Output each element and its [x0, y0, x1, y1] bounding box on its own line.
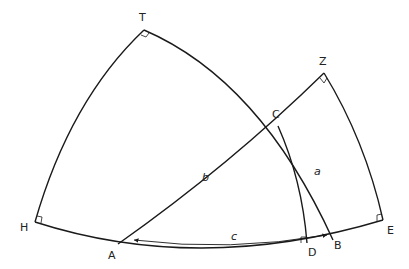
right-angle-marker-H: [37, 216, 42, 223]
label-E: E: [387, 224, 394, 237]
label-T: T: [138, 11, 146, 24]
right-angle-marker-Z: [320, 78, 327, 83]
arc-AZ: [118, 73, 324, 244]
arc-ZE: [324, 73, 383, 220]
label-C: C: [272, 108, 280, 121]
label-H: H: [20, 221, 28, 234]
label-D: D: [308, 246, 316, 259]
arc-HE-base: [35, 220, 383, 248]
arc-HT: [35, 30, 144, 222]
label-Z: Z: [319, 55, 327, 68]
label-side-b: b: [202, 171, 209, 184]
label-A: A: [108, 249, 116, 262]
arc-CD: [278, 126, 307, 243]
spherical-triangle-diagram: T Z C H A D B E a b c: [0, 0, 409, 269]
label-side-a: a: [314, 165, 321, 178]
label-side-c: c: [231, 230, 237, 243]
arc-TB: [144, 30, 333, 240]
label-B: B: [334, 239, 342, 252]
right-angle-marker-T: [141, 33, 149, 37]
